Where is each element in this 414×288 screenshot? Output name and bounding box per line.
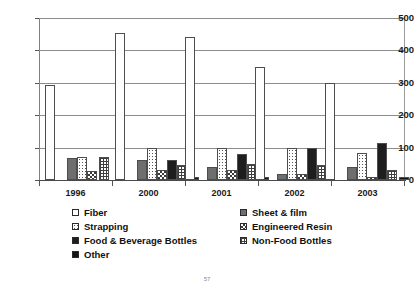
- x-tickmark-1: [112, 181, 113, 186]
- legend-item-strapping: Strapping: [72, 222, 240, 232]
- bar-2000-food-beverage-bottles: [167, 160, 177, 180]
- legend-item-sheet-film: Sheet & film: [240, 208, 400, 218]
- bar-group-1996: [45, 18, 109, 180]
- y-tickmark-100: [35, 148, 39, 149]
- x-tickmark-2: [185, 181, 186, 186]
- x-label-2003: 2003: [331, 189, 404, 198]
- x-tickmark-4: [331, 181, 332, 186]
- x-tickmark-0: [39, 181, 40, 186]
- y-tickmark-400: [35, 50, 39, 51]
- y-tick-400: 400: [384, 45, 414, 55]
- bar-2003-strapping: [357, 153, 367, 180]
- x-tickmark-3: [258, 181, 259, 186]
- x-tickmark-5: [404, 181, 405, 186]
- bar-group-2003: [325, 18, 389, 180]
- bar-group-2001: [185, 18, 249, 180]
- dotted-swatch-icon: [72, 223, 79, 230]
- legend-label-non-food-bottles: Non-Food Bottles: [252, 236, 332, 246]
- bar-2000-sheet-film: [137, 160, 147, 180]
- bar-1996-fiber: [45, 85, 55, 180]
- legend-row-3: Food & Beverage Bottles Non-Food Bottles: [72, 236, 402, 250]
- grid-swatch-icon: [240, 237, 247, 244]
- plot-area: [39, 18, 405, 180]
- bar-2003-fiber: [325, 83, 335, 180]
- legend-item-fiber: Fiber: [72, 208, 240, 218]
- legend-row-4: Other: [72, 250, 402, 264]
- legend-label-fiber: Fiber: [84, 208, 107, 218]
- legend-label-food-beverage-bottles: Food & Beverage Bottles: [84, 236, 197, 246]
- y-tick-500: 500: [384, 13, 414, 23]
- bar-2000-engineered-resin: [157, 170, 167, 180]
- bar-2001-engineered-resin: [227, 170, 237, 180]
- bar-1996-non-food-bottles: [99, 157, 109, 180]
- bar-2001-strapping: [217, 148, 227, 180]
- checker-swatch-icon: [240, 223, 247, 230]
- bar-2002-sheet-film: [277, 174, 287, 180]
- y-tick-200: 200: [384, 110, 414, 120]
- legend-item-other: Other: [72, 250, 240, 260]
- legend-item-non-food-bottles: Non-Food Bottles: [240, 236, 400, 246]
- legend-item-engineered-resin: Engineered Resin: [240, 222, 400, 232]
- y-tick-100: 100: [384, 143, 414, 153]
- bar-2000-fiber: [115, 33, 125, 180]
- white-swatch-icon: [72, 209, 79, 216]
- bar-1996-strapping: [77, 157, 87, 180]
- bar-2001-food-beverage-bottles: [237, 154, 247, 180]
- bar-2003-engineered-resin: [367, 177, 377, 180]
- gray-swatch-icon: [240, 209, 247, 216]
- y-tick-300: 300: [384, 78, 414, 88]
- black-swatch-icon: [72, 237, 79, 244]
- black-swatch-icon: [72, 251, 79, 258]
- y-tick-0: 0: [384, 175, 414, 185]
- y-tickmark-300: [35, 83, 39, 84]
- bar-2000-strapping: [147, 148, 157, 180]
- bar-2002-strapping: [287, 148, 297, 180]
- x-label-2002: 2002: [258, 189, 331, 198]
- bar-1996-sheet-film: [67, 158, 77, 180]
- x-label-2000: 2000: [112, 189, 185, 198]
- legend-label-other: Other: [84, 250, 109, 260]
- bar-2002-engineered-resin: [297, 174, 307, 180]
- legend-label-strapping: Strapping: [84, 222, 128, 232]
- bar-2002-fiber: [255, 67, 265, 180]
- page-number: 57: [0, 276, 414, 282]
- y-tickmark-200: [35, 115, 39, 116]
- bar-2003-sheet-film: [347, 167, 357, 180]
- legend-item-food-beverage-bottles: Food & Beverage Bottles: [72, 236, 240, 246]
- bar-2002-food-beverage-bottles: [307, 148, 317, 180]
- legend-label-sheet-film: Sheet & film: [252, 208, 307, 218]
- x-axis-line: [39, 180, 406, 181]
- bar-2001-fiber: [185, 37, 195, 180]
- bar-group-2002: [255, 18, 319, 180]
- x-label-1996: 1996: [39, 189, 112, 198]
- chart-legend: Fiber Sheet & film Strapping Engineered …: [72, 208, 402, 264]
- legend-label-engineered-resin: Engineered Resin: [252, 222, 332, 232]
- x-label-2001: 2001: [185, 189, 258, 198]
- bar-1996-engineered-resin: [87, 171, 97, 180]
- legend-row-2: Strapping Engineered Resin: [72, 222, 402, 236]
- bar-chart: 500 400 300 200 100 0 1996 2000 2001 200…: [0, 0, 414, 288]
- bar-2001-sheet-film: [207, 167, 217, 180]
- legend-row-1: Fiber Sheet & film: [72, 208, 402, 222]
- bar-group-2000: [115, 18, 179, 180]
- y-tickmark-500: [35, 18, 39, 19]
